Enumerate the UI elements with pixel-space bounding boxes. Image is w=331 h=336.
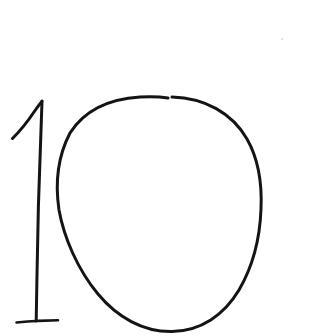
digit-one-base-serif-stroke <box>17 320 59 322</box>
ink-surface <box>0 0 331 336</box>
digit-one-flag-stroke <box>13 101 43 138</box>
digit-one-stem-stroke <box>36 101 42 321</box>
paper-speck-upper-right-mark <box>281 38 283 40</box>
digit-zero-oval-stroke <box>57 97 261 332</box>
drawing-canvas <box>0 0 331 336</box>
